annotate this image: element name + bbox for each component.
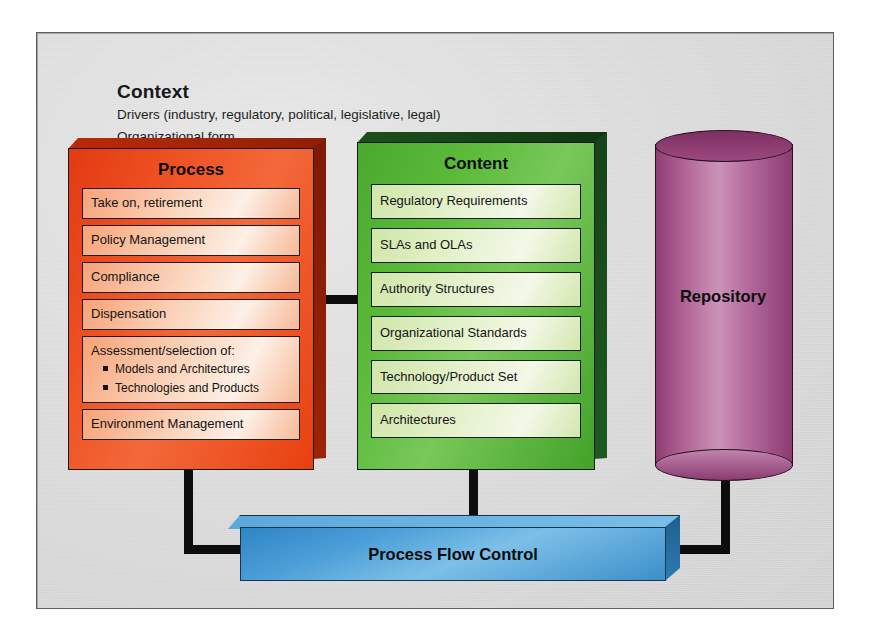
process-flow-control-bar[interactable]: Process Flow Control (228, 515, 680, 581)
process-assessment-bullet: Technologies and Products (103, 381, 291, 397)
repository-cylinder-bottom (655, 449, 793, 481)
process-item-label: Take on, retirement (91, 195, 202, 210)
connector-process-down (184, 468, 193, 554)
content-item[interactable]: Regulatory Requirements (371, 184, 581, 219)
content-block[interactable]: Content Regulatory Requirements SLAs and… (357, 132, 607, 470)
process-item-label: Dispensation (91, 306, 166, 321)
process-item[interactable]: Compliance (82, 262, 300, 293)
context-title: Context (117, 81, 441, 103)
process-block-side-bevel (313, 138, 326, 459)
content-item[interactable]: SLAs and OLAs (371, 228, 581, 263)
repository-cylinder[interactable]: Repository (655, 130, 791, 480)
flow-control-label: Process Flow Control (240, 527, 666, 581)
process-item[interactable]: Take on, retirement (82, 188, 300, 219)
content-item-label: Regulatory Requirements (380, 193, 527, 208)
content-item[interactable]: Technology/Product Set (371, 360, 581, 395)
process-title: Process (68, 160, 314, 180)
process-item[interactable]: Dispensation (82, 299, 300, 330)
content-item-label: Authority Structures (380, 281, 494, 296)
content-title: Content (357, 154, 595, 174)
content-item-label: SLAs and OLAs (380, 237, 473, 252)
content-item-label: Organizational Standards (380, 325, 527, 340)
process-item[interactable]: Policy Management (82, 225, 300, 256)
process-block[interactable]: Process Take on, retirement Policy Manag… (68, 138, 326, 470)
process-assessment-bullets: Models and Architectures Technologies an… (91, 362, 291, 396)
process-item[interactable]: Environment Management (82, 409, 300, 440)
process-item-label: Assessment/selection of: (91, 343, 235, 358)
process-item-label: Compliance (91, 269, 160, 284)
diagram-canvas: Context Drivers (industry, regulatory, p… (0, 0, 869, 636)
process-item-list: Take on, retirement Policy Management Co… (82, 188, 300, 446)
content-item-label: Technology/Product Set (380, 369, 517, 384)
process-item-label: Environment Management (91, 416, 243, 431)
content-item[interactable]: Organizational Standards (371, 316, 581, 351)
process-assessment-bullet: Models and Architectures (103, 362, 291, 378)
content-item-list: Regulatory Requirements SLAs and OLAs Au… (371, 184, 581, 447)
process-item-label: Policy Management (91, 232, 205, 247)
connector-repository-down (721, 470, 730, 554)
content-item[interactable]: Architectures (371, 403, 581, 438)
content-block-side-bevel (594, 132, 607, 459)
repository-cylinder-top (655, 130, 793, 162)
context-drivers-line: Drivers (industry, regulatory, political… (117, 105, 441, 125)
content-item-label: Architectures (380, 412, 456, 427)
process-item-assessment[interactable]: Assessment/selection of: Models and Arch… (82, 336, 300, 403)
repository-label: Repository (655, 287, 791, 306)
content-item[interactable]: Authority Structures (371, 272, 581, 307)
